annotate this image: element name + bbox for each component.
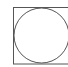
diagram-canvas (0, 0, 68, 67)
inscribed-circle (14, 8, 68, 63)
